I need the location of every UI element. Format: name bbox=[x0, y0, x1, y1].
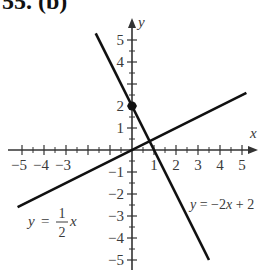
y-tick-label: 2 bbox=[117, 98, 125, 114]
y-tick-label: 1 bbox=[117, 120, 125, 136]
chart: xy−5−4−3123455421−1−2−3−4−5 y=12xy = −2x… bbox=[0, 0, 277, 273]
x-tick-label: 4 bbox=[216, 157, 224, 173]
y-tick-label: 5 bbox=[117, 32, 125, 48]
line-y-neg2x-plus-2 bbox=[96, 33, 209, 260]
fraction-denominator: 2 bbox=[59, 225, 66, 240]
axes bbox=[8, 18, 258, 270]
y-axis-arrow-icon bbox=[128, 18, 136, 28]
label-y-neg2x-plus-2: y = −2x + 2 bbox=[188, 197, 254, 212]
y-tick-label: −5 bbox=[108, 252, 124, 268]
y-tick-label: −1 bbox=[108, 164, 124, 180]
x-tick-label: −5 bbox=[11, 157, 27, 173]
x-tick-label: −4 bbox=[33, 157, 49, 173]
x-tick-label: 3 bbox=[194, 157, 202, 173]
y-axis-label: y bbox=[136, 14, 145, 30]
label-text: y bbox=[26, 213, 35, 229]
y-tick-label: 4 bbox=[117, 54, 125, 70]
x-tick-label: 2 bbox=[172, 157, 180, 173]
x-tick-label: 5 bbox=[238, 157, 246, 173]
tick-labels: xy−5−4−3123455421−1−2−3−4−5 bbox=[11, 14, 257, 268]
y-tick-label: −3 bbox=[108, 208, 124, 224]
fraction-numerator: 1 bbox=[59, 206, 66, 221]
x-axis-label: x bbox=[249, 125, 257, 141]
label-text: x bbox=[69, 213, 77, 229]
label-text: = bbox=[41, 213, 49, 229]
x-axis-arrow-icon bbox=[248, 146, 258, 154]
x-tick-label: 1 bbox=[150, 157, 158, 173]
annotations: y=12xy = −2x + 2 bbox=[26, 197, 254, 240]
y-tick-label: −2 bbox=[108, 186, 124, 202]
x-tick-label: −3 bbox=[55, 157, 71, 173]
label-y-half-x: y=12x bbox=[26, 206, 77, 240]
y-intercept-point bbox=[128, 102, 137, 111]
y-tick-label: −4 bbox=[108, 230, 124, 246]
